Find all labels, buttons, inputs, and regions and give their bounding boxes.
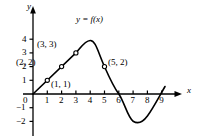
point-label-1-1: (1, 1) xyxy=(51,80,71,89)
x-tick-label-9: 9 xyxy=(159,96,164,105)
y-tick-label-neg2: −2 xyxy=(16,117,26,126)
y-axis xyxy=(30,6,36,136)
x-tick-label-4: 4 xyxy=(88,96,93,105)
point-label-3-3: (3, 3) xyxy=(37,40,57,49)
curve-label: y = f(x) xyxy=(76,15,103,24)
function-graph-figure: y x 0 1 2 3 4 5 6 7 8 9 4 3 2 1 −1 −2 y … xyxy=(0,0,199,140)
marker-point-2-2 xyxy=(60,65,64,69)
x-axis-label: x xyxy=(187,86,191,95)
y-tick-label-3: 3 xyxy=(22,48,27,57)
x-tick-label-1: 1 xyxy=(45,96,50,105)
marker-point-5-2 xyxy=(102,65,106,69)
marked-point-markers xyxy=(45,51,106,83)
point-label-2-2: (2, 2) xyxy=(16,58,36,67)
x-tick-label-8: 8 xyxy=(145,96,150,105)
y-tick-label-neg1: −1 xyxy=(16,103,26,112)
x-tick-label-5: 5 xyxy=(102,96,107,105)
x-tick-label-6: 6 xyxy=(116,96,121,105)
x-tick-label-3: 3 xyxy=(73,96,78,105)
marker-point-1-1 xyxy=(45,78,49,82)
y-axis-label: y xyxy=(27,2,31,11)
y-tick-label-4: 4 xyxy=(22,35,27,44)
point-label-5-2: (5, 2) xyxy=(108,58,128,67)
marker-point-3-3 xyxy=(74,51,78,55)
y-tick-label-1: 1 xyxy=(22,76,27,85)
x-tick-label-2: 2 xyxy=(59,96,64,105)
x-tick-label-7: 7 xyxy=(131,96,136,105)
